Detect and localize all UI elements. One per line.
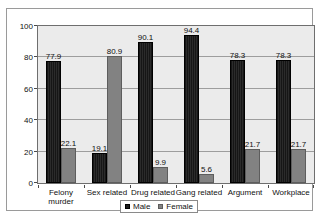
x-axis-tick-mark [84, 185, 85, 188]
legend-swatch-icon [158, 204, 163, 209]
bar-female[interactable]: 5.6 [199, 174, 214, 183]
x-axis-category-label-line: Drug related [131, 188, 175, 197]
y-axis-tick-label: 80 [24, 53, 33, 62]
x-axis-category-label-line: Felony [48, 188, 73, 197]
bars-layer: 77.922.119.180.990.19.994.45.678.321.778… [38, 26, 314, 183]
bar-value-label: 78.3 [230, 51, 246, 60]
x-axis-category-label: Gang related [176, 188, 222, 197]
legend-entry-female[interactable]: Female [158, 202, 193, 211]
chart-frame: 020406080100 77.922.119.180.990.19.994.4… [6, 8, 313, 211]
bar-female[interactable]: 80.9 [107, 56, 122, 183]
y-axis-tick-label: 40 [24, 116, 33, 125]
bar-value-label: 21.7 [291, 140, 307, 149]
clipped-title-remnant [0, 0, 321, 6]
bar-female[interactable]: 21.7 [245, 149, 260, 183]
bar-group: 78.321.7 [268, 26, 314, 183]
x-axis-category-label-line: murder [48, 197, 73, 206]
x-axis-category-label: Felonymurder [48, 188, 73, 206]
x-axis-category-label-line: Gang related [176, 188, 222, 197]
y-axis-tick-label: 20 [24, 147, 33, 156]
legend-label: Female [166, 202, 193, 211]
bar-male[interactable]: 78.3 [230, 60, 245, 183]
bar-group: 77.922.1 [38, 26, 84, 183]
bar-value-label: 94.4 [184, 26, 200, 35]
bar-value-label: 9.9 [155, 158, 166, 167]
bar-male[interactable]: 94.4 [184, 35, 199, 183]
bar-value-label: 21.7 [245, 140, 261, 149]
y-axis-tick-label: 60 [24, 84, 33, 93]
x-axis-tick-mark [268, 185, 269, 188]
x-axis-category-label: Argument [228, 188, 263, 197]
bar-group: 19.180.9 [84, 26, 130, 183]
x-axis-category-label-line: Sex related [87, 188, 127, 197]
bar-value-label: 5.6 [201, 165, 212, 174]
chart-figure: 020406080100 77.922.119.180.990.19.994.4… [0, 0, 321, 221]
bar-value-label: 77.9 [46, 52, 62, 61]
bar-male[interactable]: 19.1 [92, 153, 107, 183]
x-axis-category-label-line: Workplace [272, 188, 310, 197]
bar-female[interactable]: 22.1 [61, 148, 76, 183]
legend-label: Male [133, 202, 150, 211]
x-axis-tick-mark [313, 185, 314, 188]
bar-male[interactable]: 78.3 [276, 60, 291, 183]
y-axis-tick-label: 100 [20, 22, 33, 31]
y-axis: 020406080100 [15, 25, 37, 184]
bar-female[interactable]: 21.7 [291, 149, 306, 183]
bar-value-label: 22.1 [61, 139, 77, 148]
bar-male[interactable]: 77.9 [46, 61, 61, 183]
bar-value-label: 19.1 [92, 144, 108, 153]
bar-group: 94.45.6 [176, 26, 222, 183]
bar-female[interactable]: 9.9 [153, 167, 168, 183]
bar-male[interactable]: 90.1 [138, 42, 153, 183]
chart-legend: MaleFemale [120, 200, 198, 213]
x-axis-category-label: Drug related [131, 188, 175, 197]
bar-value-label: 80.9 [107, 47, 123, 56]
x-axis-category-label: Sex related [87, 188, 127, 197]
x-axis-category-label: Workplace [272, 188, 310, 197]
y-axis-tick-label: 0 [29, 179, 33, 188]
legend-entry-male[interactable]: Male [125, 202, 150, 211]
legend-swatch-icon [125, 204, 130, 209]
x-axis-category-label-line: Argument [228, 188, 263, 197]
bar-group: 90.19.9 [130, 26, 176, 183]
bar-value-label: 90.1 [138, 33, 154, 42]
x-axis-tick-mark [222, 185, 223, 188]
x-axis-tick-mark [38, 185, 39, 188]
bar-group: 78.321.7 [222, 26, 268, 183]
bar-value-label: 78.3 [276, 51, 292, 60]
